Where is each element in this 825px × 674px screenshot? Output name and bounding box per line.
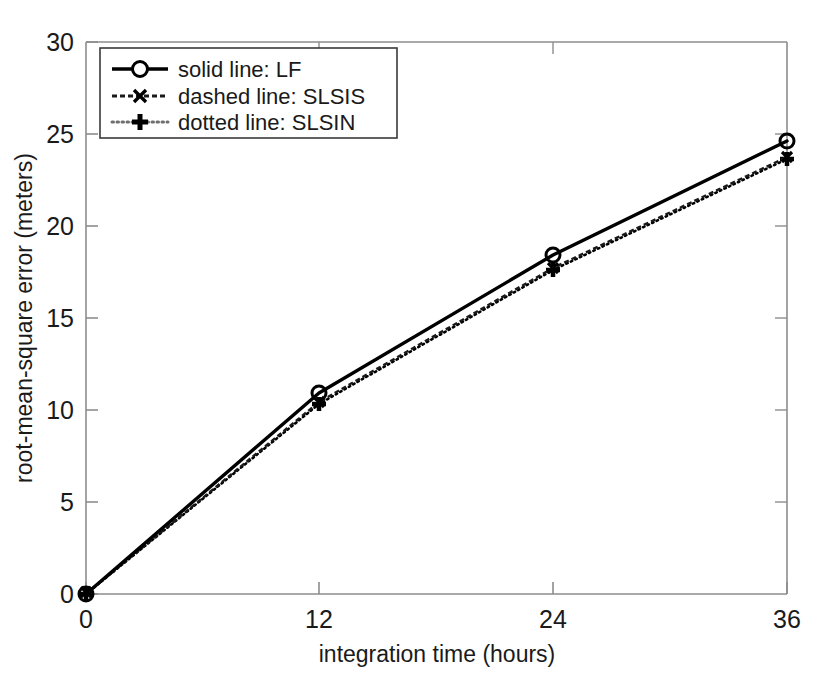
chart-figure: 0 5 10 15 20 25 30 0 12 24 36 integratio… — [0, 0, 825, 674]
x-tick-label-12: 12 — [305, 605, 333, 633]
y-tick-label-0: 0 — [60, 580, 74, 608]
chart-legend: solid line: LF dashed line: SLSIS dotted… — [100, 48, 397, 138]
y-tick-label-25: 25 — [46, 120, 74, 148]
y-axis-title: root-mean-square error (meters) — [11, 153, 37, 483]
y-tick-label-10: 10 — [46, 396, 74, 424]
legend-label-slsin: dotted line: SLSIN — [178, 110, 355, 135]
y-tick-label-30: 30 — [46, 28, 74, 56]
y-tick-label-20: 20 — [46, 212, 74, 240]
x-tick-label-36: 36 — [773, 605, 801, 633]
rmse-line-chart: 0 5 10 15 20 25 30 0 12 24 36 integratio… — [0, 0, 825, 674]
x-axis-title: integration time (hours) — [319, 641, 556, 667]
legend-label-lf: solid line: LF — [178, 57, 302, 82]
x-tick-label-0: 0 — [79, 605, 93, 633]
y-tick-label-15: 15 — [46, 304, 74, 332]
y-tick-label-5: 5 — [60, 488, 74, 516]
x-tick-label-24: 24 — [539, 605, 567, 633]
legend-label-slsis: dashed line: SLSIS — [178, 84, 365, 109]
legend-marker-circle-icon — [133, 62, 148, 77]
